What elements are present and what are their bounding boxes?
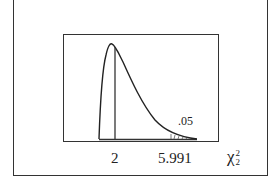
axis-subscript: 2 <box>236 158 241 167</box>
mean-tick-label: 2 <box>111 150 119 167</box>
critical-value-label: 5.991 <box>158 150 192 167</box>
tail-area-label: .05 <box>178 114 193 129</box>
axis-symbol: χ22 <box>227 147 240 167</box>
chi-symbol: χ <box>227 147 235 166</box>
